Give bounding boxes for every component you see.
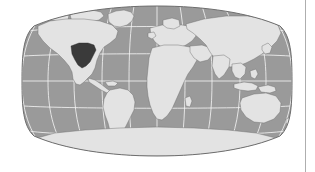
panel-divider [305, 0, 306, 172]
world-map-svg[interactable] [0, 0, 305, 172]
world-map-figure [0, 0, 305, 172]
ocean-layer [0, 0, 305, 172]
screenshot-root [0, 0, 315, 172]
